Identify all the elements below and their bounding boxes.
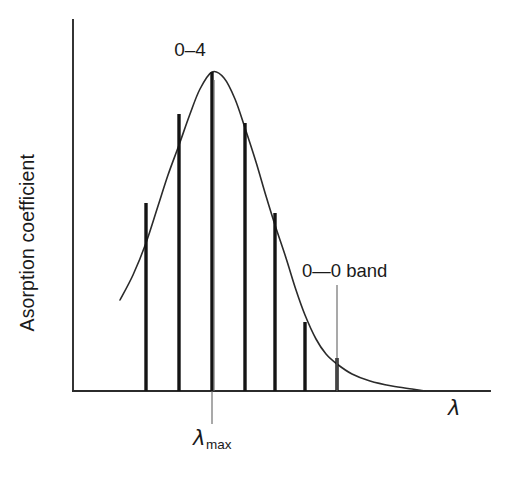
lambda-max-label: λmax <box>193 428 231 449</box>
absorption-envelope-curve <box>120 71 425 391</box>
peak-annotation-label: 0–4 <box>174 40 206 59</box>
lambda-max-symbol: λ <box>193 426 205 450</box>
plot-canvas <box>0 0 507 485</box>
lambda-max-subscript: max <box>206 437 232 452</box>
y-axis-label-text: Asorption coefficient <box>18 154 38 331</box>
band-annotation-label: 0—0 band <box>302 262 387 281</box>
absorption-spectrum-figure: Asorption coefficient 0–4 0—0 band λ λma… <box>0 0 507 485</box>
y-axis-label: Asorption coefficient <box>6 0 50 485</box>
x-axis-label: λ <box>448 398 460 419</box>
